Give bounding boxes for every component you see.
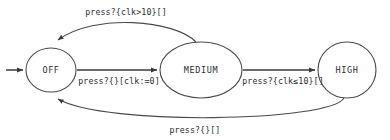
state-label-high: HIGH [336,65,359,75]
state-label-off: OFF [42,65,59,75]
state-machine-diagram: OFF MEDIUM HIGH press?{clk>10}[] press?{… [0,0,390,140]
transition-label-high-to-off: press?{}[] [170,125,221,135]
transition-arrow-medium-to-off [58,22,196,42]
state-label-medium: MEDIUM [184,65,218,75]
transition-label-medium-to-high: press?{clk≤10}[] [242,76,324,86]
fsm-canvas: OFF MEDIUM HIGH press?{clk>10}[] press?{… [0,0,390,140]
transition-label-off-to-medium: press?{}[clk:=0] [78,76,160,86]
transition-arrow-high-to-off [58,98,344,118]
transition-label-medium-to-off: press?{clk>10}[] [85,7,167,17]
